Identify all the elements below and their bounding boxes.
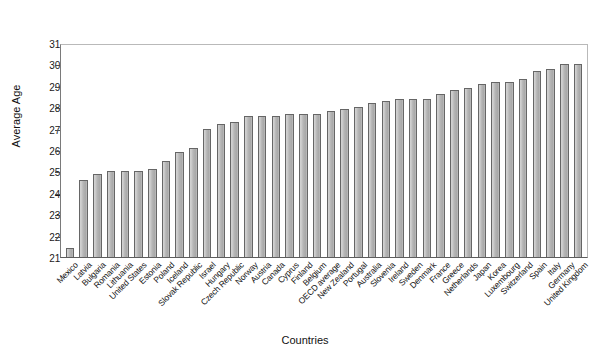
y-tick-label: 29 <box>16 81 60 92</box>
bar-slot <box>557 45 571 257</box>
bar-slot <box>461 45 475 257</box>
bar-slot <box>118 45 132 257</box>
y-tick-label: 26 <box>16 146 60 157</box>
bar-slot <box>310 45 324 257</box>
bar <box>285 114 294 257</box>
bar <box>519 79 528 257</box>
bar <box>327 111 336 257</box>
bar-slot <box>77 45 91 257</box>
bar-slot <box>365 45 379 257</box>
bar-slot <box>406 45 420 257</box>
bar <box>93 174 102 257</box>
bar-slot <box>269 45 283 257</box>
y-axis: Average Age 2122232425262728293031 <box>0 0 60 357</box>
bar-slot <box>63 45 77 257</box>
x-axis-title: Countries <box>0 334 610 346</box>
bar <box>533 71 542 257</box>
bar-slot <box>132 45 146 257</box>
bar-slot <box>145 45 159 257</box>
bar <box>134 171 143 257</box>
bar-slot <box>104 45 118 257</box>
bar <box>189 148 198 257</box>
bar <box>395 99 404 257</box>
y-tick-label: 31 <box>16 39 60 50</box>
scan-artifact <box>0 0 610 14</box>
bar <box>121 171 130 257</box>
bar-slot <box>255 45 269 257</box>
y-tick-label: 21 <box>16 253 60 264</box>
bar-slot <box>351 45 365 257</box>
y-tick-label: 22 <box>16 231 60 242</box>
bar <box>272 116 281 257</box>
bar-slot <box>489 45 503 257</box>
bar <box>244 116 253 257</box>
bar <box>175 152 184 257</box>
bar <box>313 114 322 257</box>
y-tick-label: 28 <box>16 103 60 114</box>
bar-slot <box>571 45 585 257</box>
bar <box>203 129 212 257</box>
bar <box>258 116 267 257</box>
bar <box>299 114 308 257</box>
bar-slot <box>90 45 104 257</box>
bar-slot <box>379 45 393 257</box>
bar-slot <box>393 45 407 257</box>
bar <box>409 99 418 257</box>
bar <box>66 248 75 257</box>
bar <box>450 90 459 257</box>
bar-series <box>61 45 587 257</box>
y-tick-label: 23 <box>16 210 60 221</box>
bar-slot <box>338 45 352 257</box>
bar-slot <box>544 45 558 257</box>
bar-slot <box>228 45 242 257</box>
bar <box>560 64 569 257</box>
bar-slot <box>324 45 338 257</box>
bar-slot <box>187 45 201 257</box>
bar-slot <box>173 45 187 257</box>
bar-slot <box>530 45 544 257</box>
bar-slot <box>434 45 448 257</box>
bar <box>148 169 157 257</box>
bar <box>546 69 555 257</box>
bar <box>574 64 583 257</box>
bar <box>505 82 514 257</box>
bar-slot <box>503 45 517 257</box>
bar <box>230 122 239 257</box>
y-axis-title: Average Age <box>10 56 22 176</box>
bar-slot <box>420 45 434 257</box>
bar <box>368 103 377 257</box>
bar <box>423 99 432 257</box>
bar-slot <box>516 45 530 257</box>
y-tick-label: 27 <box>16 124 60 135</box>
bar <box>436 94 445 257</box>
plot-area <box>60 44 588 258</box>
y-tick-label: 24 <box>16 188 60 199</box>
bar-slot <box>296 45 310 257</box>
bar-slot <box>200 45 214 257</box>
bar <box>107 171 116 257</box>
bar-slot <box>283 45 297 257</box>
bar <box>217 124 226 257</box>
bar <box>162 161 171 257</box>
bar-slot <box>159 45 173 257</box>
bar-slot <box>242 45 256 257</box>
bar <box>340 109 349 257</box>
bar <box>79 180 88 257</box>
bar <box>464 88 473 257</box>
bar-slot <box>475 45 489 257</box>
bar-slot <box>448 45 462 257</box>
bar <box>478 84 487 257</box>
bar-chart-figure: Average Age 2122232425262728293031 Mexic… <box>0 0 610 357</box>
bar <box>491 82 500 257</box>
y-tick-label: 25 <box>16 167 60 178</box>
bar <box>382 101 391 257</box>
y-tick-label: 30 <box>16 60 60 71</box>
bar-slot <box>214 45 228 257</box>
bar <box>354 107 363 257</box>
